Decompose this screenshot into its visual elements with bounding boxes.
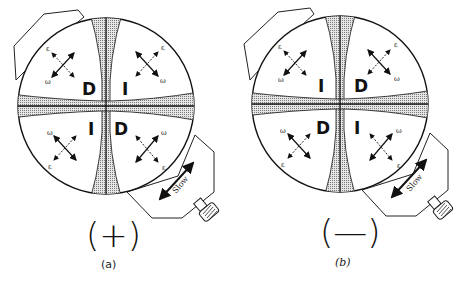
- quadrant-label-br: D: [114, 119, 128, 139]
- epsilon-label: ε: [397, 162, 401, 170]
- quadrant-label-tr: D: [354, 76, 368, 96]
- omega-label: ω: [394, 75, 400, 83]
- omega-label: ω: [160, 77, 166, 85]
- omega-label: ω: [280, 127, 286, 135]
- epsilon-label: ε: [48, 163, 52, 171]
- quadrant-label-tl: D: [82, 79, 96, 99]
- omega-label: ω: [47, 129, 53, 137]
- epsilon-label: ε: [394, 41, 398, 49]
- omega-label: ω: [278, 76, 284, 84]
- epsilon-label: ε: [161, 44, 165, 52]
- epsilon-label: ε: [278, 43, 282, 51]
- omega-label: ω: [161, 129, 167, 137]
- quadrant-label-bl: I: [88, 119, 94, 139]
- epsilon-label: ε: [46, 45, 50, 53]
- quadrant-label-tr: I: [122, 79, 128, 99]
- interference-figure-diagram: ε ω ε ω ω ε ω ε D I I D Slow (+) (a): [0, 0, 472, 282]
- quadrant-label-tl: I: [318, 76, 324, 96]
- omega-label: ω: [45, 78, 51, 86]
- isogyres: [244, 8, 434, 198]
- quadrant-label-br: I: [354, 118, 360, 138]
- sign-label: (—): [320, 212, 381, 252]
- panel-caption: (b): [335, 256, 351, 269]
- panel-a: ε ω ε ω ω ε ω ε D I I D Slow (+) (a): [10, 10, 220, 271]
- panel-caption: (a): [101, 258, 116, 271]
- omega-label: ω: [396, 127, 402, 135]
- sign-label: (+): [86, 215, 141, 255]
- quadrant-label-bl: D: [316, 118, 330, 138]
- knob-icon[interactable]: [428, 196, 454, 220]
- epsilon-label: ε: [162, 164, 166, 172]
- epsilon-label: ε: [281, 161, 285, 169]
- isogyres: [10, 10, 200, 200]
- panel-b: ε ω ε ω ω ε ω ε I D D I Slow (—) (b): [244, 8, 454, 269]
- knob-icon[interactable]: [194, 198, 220, 222]
